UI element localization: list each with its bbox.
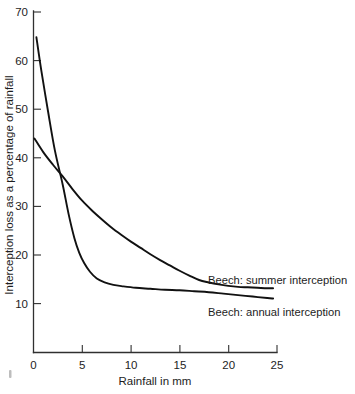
y-tick-label-50: 50 [15, 103, 28, 115]
y-axis-title: Interception loss as a percentage of rai… [3, 75, 15, 294]
y-tick-label-30: 30 [15, 200, 28, 212]
series-label-annual: Beech: annual interception [208, 306, 340, 318]
scan-artifact [9, 370, 12, 378]
x-tick-label-20: 20 [222, 359, 235, 371]
curve-beech-summer-interception [34, 138, 273, 288]
y-tick-label-10: 10 [15, 298, 28, 310]
x-axis-title: Rainfall in mm [119, 375, 192, 387]
x-tick-label-25: 25 [271, 359, 284, 371]
chart-figure: 70 60 50 40 30 20 10 0 5 10 15 20 25 Rai… [0, 0, 355, 394]
line-chart-canvas: 70 60 50 40 30 20 10 0 5 10 15 20 25 Rai… [0, 0, 355, 394]
series-label-summer: Beech: summer interception [208, 274, 347, 286]
y-tick-label-60: 60 [15, 55, 28, 67]
x-tick-label-10: 10 [125, 359, 138, 371]
y-tick-label-70: 70 [15, 6, 28, 18]
y-tick-label-20: 20 [15, 249, 28, 261]
x-tick-label-5: 5 [79, 359, 85, 371]
x-tick-label-15: 15 [174, 359, 187, 371]
x-axis-ticks [82, 345, 277, 353]
x-axis-tick-labels: 0 5 10 15 20 25 [30, 359, 283, 371]
curve-beech-annual-interception [36, 37, 273, 298]
y-tick-label-40: 40 [15, 152, 28, 164]
x-tick-label-0: 0 [30, 359, 36, 371]
y-axis-tick-labels: 70 60 50 40 30 20 10 [15, 6, 28, 310]
